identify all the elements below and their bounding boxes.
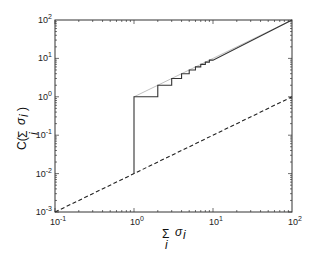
x-tick-label-2: 101 [209,215,223,227]
x-label-sum-index: i [165,238,168,252]
chart: 10-1100101102 10-310-210-1100101102 Σ i … [0,0,312,257]
x-label-sigma: σ [175,225,183,239]
y-tick-label-1: 10-2 [36,167,52,179]
y-label-prefix: C( [15,137,29,150]
y-label-suffix: ) [15,107,29,111]
y-label-sum-index: i [27,132,41,135]
y-label-sigma: σ [14,117,28,125]
x-tick-label-0: 10-1 [50,215,66,227]
x-tick-label-3: 102 [288,215,302,227]
y-tick-label-0: 10-3 [36,205,52,217]
axes-box [55,20,292,212]
axis-ticks [55,20,292,212]
series-line-2 [55,97,292,212]
y-tick-label-5: 102 [38,13,52,25]
y-label-sigma-index: i [17,114,31,117]
plot-lines [55,20,292,212]
x-axis-label: Σ i σ i [162,225,186,252]
y-tick-label-4: 101 [38,51,52,63]
x-tick-label-1: 100 [130,215,144,227]
x-label-sigma-index: i [183,228,186,242]
y-axis-label: C( Σ i σ i ) [14,107,41,150]
y-tick-labels: 10-310-210-1100101102 [36,13,52,217]
y-tick-label-3: 100 [38,90,52,102]
series-line-1 [134,20,292,174]
